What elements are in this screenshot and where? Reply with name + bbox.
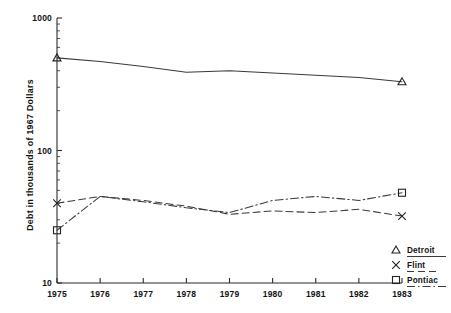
series-layer: [53, 54, 406, 234]
x-tick-label: 1975: [47, 289, 67, 299]
x-tick-label: 1978: [177, 289, 197, 299]
chart-container: Debt in thousands of 1967 Dollars 100010…: [0, 0, 451, 313]
x-tick-label: 1983: [392, 289, 412, 299]
x-tick-label: 1977: [133, 289, 153, 299]
legend-label-flint: Flint: [407, 261, 425, 270]
x-tick-label: 1981: [306, 289, 326, 299]
series-line-detroit: [57, 58, 402, 82]
debt-log-line-chart: Debt in thousands of 1967 Dollars 100010…: [0, 0, 451, 313]
x-tick-label: 1982: [349, 289, 369, 299]
y-axis-label: Debt in thousands of 1967 Dollars: [25, 79, 35, 231]
x-tick-label: 1976: [90, 289, 110, 299]
axes-group: [57, 18, 402, 283]
y-tick-label: 10: [42, 278, 52, 288]
legend-label-pontiac: Pontiac: [407, 276, 438, 285]
series-line-flint: [57, 196, 402, 216]
series-line-pontiac: [57, 193, 402, 231]
legend-item-detroit[interactable]: Detroit: [392, 246, 446, 257]
x-tick-label: 1979: [220, 289, 240, 299]
x-tick-label: 1980: [263, 289, 283, 299]
series-marker-triangle: [392, 246, 400, 253]
chart-legend: DetroitFlintPontiac: [392, 246, 446, 287]
y-tick-label: 1000: [32, 13, 52, 23]
y-axis-label-text: Debt in thousands of 1967 Dollars: [25, 79, 35, 231]
legend-item-pontiac[interactable]: Pontiac: [393, 276, 447, 287]
legend-item-flint[interactable]: Flint: [392, 261, 436, 272]
legend-label-detroit: Detroit: [407, 246, 435, 255]
y-tick-label: 100: [37, 146, 52, 156]
series-marker-x: [392, 261, 400, 269]
x-axis-ticks: 197519761977197819791980198119821983: [47, 278, 412, 299]
